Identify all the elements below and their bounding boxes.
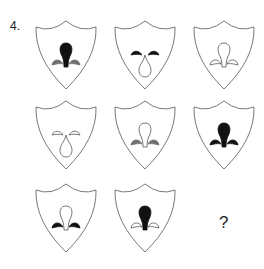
shield-r3c1 xyxy=(33,182,99,254)
shield-icon xyxy=(191,19,257,91)
shield-r1c2 xyxy=(112,19,178,91)
shield-r2c3 xyxy=(191,99,257,171)
shield-icon xyxy=(33,182,99,254)
shield-r1c3 xyxy=(191,19,257,91)
missing-answer-mark: ? xyxy=(219,213,228,233)
shield-icon xyxy=(33,19,99,91)
shield-r1c1 xyxy=(33,19,99,91)
shield-r2c1 xyxy=(33,99,99,171)
shield-r3c2 xyxy=(112,182,178,254)
shield-icon xyxy=(112,182,178,254)
shield-r2c2 xyxy=(112,99,178,171)
question-number: 4. xyxy=(10,19,20,33)
shield-icon xyxy=(112,99,178,171)
shield-icon xyxy=(191,99,257,171)
shield-icon xyxy=(33,99,99,171)
shield-icon xyxy=(112,19,178,91)
